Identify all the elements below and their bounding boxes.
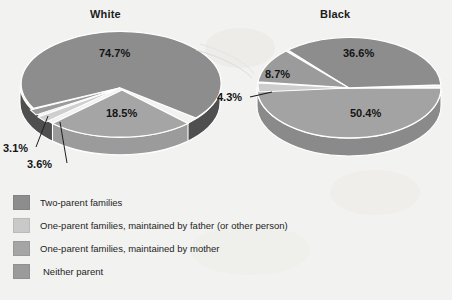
label-white-3-6: 3.6% — [27, 158, 52, 170]
legend-swatch-father — [13, 218, 30, 233]
label-white-74-7: 74.7% — [99, 47, 130, 59]
label-black-36-6: 36.6% — [343, 47, 374, 59]
legend-item-father: One-parent families, maintained by fathe… — [13, 214, 343, 237]
legend-swatch-mother — [13, 241, 30, 256]
figure-container: White Black — [0, 0, 452, 300]
label-black-50-4: 50.4% — [350, 107, 381, 119]
label-white-3-1: 3.1% — [3, 142, 28, 154]
legend-item-mother: One-parent families, maintained by mothe… — [13, 237, 343, 260]
legend-item-neither: Neither parent — [13, 260, 343, 283]
label-white-18-5: 18.5% — [106, 107, 137, 119]
legend-swatch-neither — [13, 264, 30, 279]
legend-swatch-two-parent — [13, 195, 30, 210]
legend-label-two-parent: Two-parent families — [40, 197, 122, 208]
legend-label-neither: Neither parent — [43, 266, 103, 277]
legend-label-mother: One-parent families, maintained by mothe… — [40, 243, 220, 254]
legend: Two-parent families One-parent families,… — [13, 191, 343, 283]
label-black-4-3: 4.3% — [217, 91, 242, 103]
legend-item-two-parent: Two-parent families — [13, 191, 343, 214]
label-black-8-7: 8.7% — [265, 68, 290, 80]
legend-label-father: One-parent families, maintained by fathe… — [40, 220, 288, 231]
